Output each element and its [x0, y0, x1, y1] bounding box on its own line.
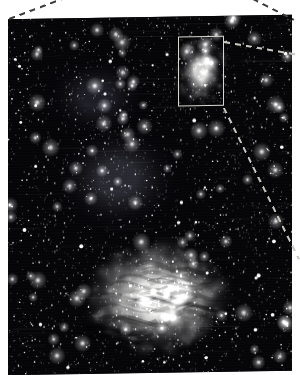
sky-canvas — [8, 15, 292, 375]
callout-top-left — [9, 0, 63, 20]
inset-selection-box[interactable] — [178, 36, 224, 107]
starfield-photograph[interactable] — [8, 15, 292, 375]
